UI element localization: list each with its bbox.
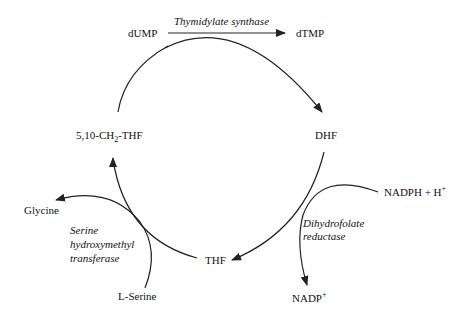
enzyme-dhfr-line1: Dihydrofolate: [303, 217, 364, 230]
enzyme-thymidylate-synthase: Thymidylate synthase: [174, 15, 269, 28]
node-dhf: DHF: [315, 129, 337, 142]
enzyme-shmt-line2: hydroxymethyl: [70, 238, 134, 251]
node-glycine: Glycine: [24, 204, 59, 217]
enzyme-dhfr-line2: reductase: [303, 230, 345, 243]
node-dump: dUMP: [128, 27, 157, 40]
node-serine: L-Serine: [118, 290, 156, 303]
diagram-canvas: dUMP Thymidylate synthase dTMP DHF 5,10-…: [0, 0, 471, 319]
cycle-arrows: [0, 0, 471, 319]
enzyme-shmt-line1: Serine: [70, 224, 98, 237]
node-nadp: NADP+: [292, 292, 326, 305]
arrow-cycle-topleft: [118, 46, 168, 112]
arrow-cycle-top: [165, 38, 322, 112]
node-dtmp: dTMP: [296, 27, 324, 40]
node-thf: THF: [205, 254, 226, 267]
node-methylene-thf: 5,10-CH2-THF: [76, 129, 143, 142]
arrow-dhf-to-thf: [232, 152, 324, 260]
enzyme-shmt-line3: transferase: [70, 252, 120, 265]
node-nadph: NADPH + H+: [384, 186, 446, 199]
